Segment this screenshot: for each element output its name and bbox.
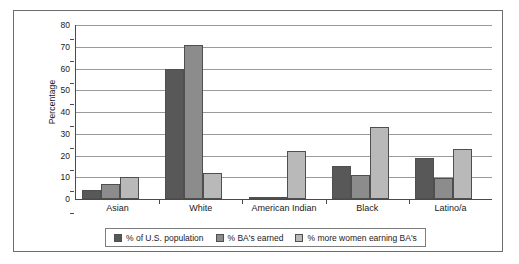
y-axis-tick-mark bbox=[70, 126, 74, 127]
gridline bbox=[76, 156, 492, 157]
y-axis-tick-mark bbox=[70, 39, 74, 40]
x-axis-category-label: White bbox=[189, 203, 212, 213]
y-axis-tick-label: 40 bbox=[44, 107, 70, 117]
plot-area bbox=[76, 25, 492, 199]
legend-label: % BA's earned bbox=[228, 233, 284, 243]
legend-label: % more women earning BA's bbox=[307, 233, 416, 243]
bar bbox=[165, 69, 184, 200]
x-axis-category-label: Asian bbox=[106, 203, 129, 213]
legend-swatch-icon bbox=[295, 234, 303, 242]
y-axis-tick-mark bbox=[70, 61, 74, 62]
y-axis-tick-label: 10 bbox=[44, 172, 70, 182]
y-axis-tick-label: 80 bbox=[44, 20, 70, 30]
bar bbox=[287, 151, 306, 199]
x-axis-category-label: Black bbox=[356, 203, 378, 213]
bar bbox=[370, 127, 389, 199]
chart-legend: % of U.S. population% BA's earned% more … bbox=[105, 228, 426, 247]
bar bbox=[351, 175, 370, 199]
y-axis-tick-mark bbox=[70, 104, 74, 105]
bar bbox=[203, 173, 222, 199]
bar bbox=[415, 158, 434, 199]
bar bbox=[434, 178, 453, 199]
bar bbox=[82, 190, 101, 199]
legend-label: % of U.S. population bbox=[126, 233, 204, 243]
x-axis-category-label: American Indian bbox=[251, 203, 316, 213]
y-axis-tick-label: 20 bbox=[44, 151, 70, 161]
y-axis-tick-labels: 01020304050607080 bbox=[44, 25, 70, 200]
y-axis-tick-label: 0 bbox=[44, 194, 70, 204]
legend-swatch-icon bbox=[216, 234, 224, 242]
gridline bbox=[76, 25, 492, 26]
chart-figure-frame: Percentage 01020304050607080 AsianWhiteA… bbox=[13, 10, 503, 252]
bar bbox=[332, 166, 351, 199]
legend-item: % of U.S. population bbox=[114, 233, 204, 243]
gridline bbox=[76, 112, 492, 113]
x-axis-category-label: Latino/a bbox=[434, 203, 466, 213]
legend-item: % BA's earned bbox=[216, 233, 284, 243]
bar bbox=[268, 197, 287, 199]
gridline bbox=[76, 90, 492, 91]
legend-item: % more women earning BA's bbox=[295, 233, 416, 243]
bar bbox=[184, 45, 203, 199]
y-axis-tick-label: 50 bbox=[44, 85, 70, 95]
x-axis-line bbox=[75, 199, 492, 200]
bar bbox=[249, 197, 268, 199]
y-axis-tick-mark bbox=[70, 148, 74, 149]
bar bbox=[453, 149, 472, 199]
y-axis-tick-mark bbox=[70, 213, 74, 214]
bar bbox=[101, 184, 120, 199]
y-axis-tick-label: 30 bbox=[44, 129, 70, 139]
y-axis-tick-label: 60 bbox=[44, 64, 70, 74]
gridline bbox=[76, 69, 492, 70]
y-axis-tick-mark bbox=[70, 191, 74, 192]
y-axis-tick-label: 70 bbox=[44, 42, 70, 52]
bar bbox=[120, 177, 139, 199]
gridline bbox=[76, 47, 492, 48]
y-axis-tick-mark bbox=[70, 83, 74, 84]
x-axis-category-labels: AsianWhiteAmerican IndianBlackLatino/a bbox=[76, 203, 492, 219]
legend-swatch-icon bbox=[114, 234, 122, 242]
gridline bbox=[76, 134, 492, 135]
y-axis-tick-mark bbox=[70, 170, 74, 171]
